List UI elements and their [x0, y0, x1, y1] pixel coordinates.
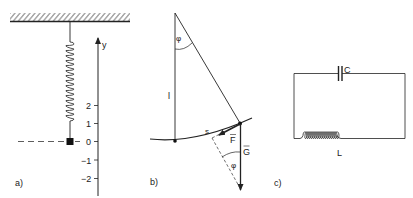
force-decomposition-base	[212, 134, 220, 138]
y-axis-label: y	[102, 40, 107, 50]
gravity-label: G	[243, 147, 250, 157]
length-label: l	[168, 91, 170, 101]
tick-label-2: 2	[86, 101, 91, 111]
tick-label-0: 0	[86, 137, 91, 147]
tick-label-minus-1: −1	[81, 156, 91, 166]
angle-arc-bottom	[222, 152, 240, 157]
tick-label-1: 1	[86, 119, 91, 129]
angle-arc-top	[175, 43, 192, 49]
panel-c-lc-circuit: C L c)	[274, 65, 405, 188]
angle-phi-bottom: φ	[231, 161, 236, 170]
panel-a-spring-oscillator: y 2 1 0 −1 −2 a)	[10, 13, 130, 196]
spring-coil	[66, 42, 74, 121]
arc-length-label: s	[205, 127, 209, 136]
panel-b-pendulum: φ l s F G φ b)	[150, 13, 252, 190]
angle-phi-top: φ	[176, 34, 181, 43]
rest-position-dot	[173, 139, 177, 143]
inductor-label: L	[337, 148, 342, 158]
swing-arc	[150, 118, 252, 140]
force-label: F	[230, 135, 236, 145]
panel-c-label: c)	[274, 178, 282, 188]
mass-block	[67, 138, 74, 145]
physics-oscillators-figure: y 2 1 0 −1 −2 a) φ l s F G	[0, 0, 413, 198]
pendulum-string	[175, 13, 240, 123]
panel-a-label: a)	[15, 178, 23, 188]
y-axis-ticks	[94, 106, 98, 179]
panel-b-label: b)	[150, 177, 158, 187]
tick-label-minus-2: −2	[81, 174, 91, 184]
ceiling-hatch	[10, 13, 130, 21]
inductor-coil	[300, 132, 385, 139]
